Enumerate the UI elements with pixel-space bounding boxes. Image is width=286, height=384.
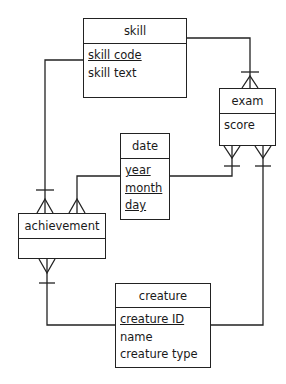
entity-achievement[interactable]: achievement [18,213,106,259]
entity-creature[interactable]: creature creature ID name creature type [115,283,211,368]
attribute-score: score [224,117,275,135]
entity-creature-title: creature [116,284,210,308]
entity-exam-title: exam [220,89,275,114]
attribute-year: year [125,162,169,180]
attribute-day: day [125,197,169,215]
entity-achievement-title: achievement [19,214,105,239]
entity-date[interactable]: date year month day [120,133,170,220]
attribute-creature-type: creature type [120,346,210,364]
entity-exam[interactable]: exam score [219,88,276,146]
date-achievement-line [77,176,120,213]
entity-date-title: date [121,134,169,159]
attribute-name: name [120,329,210,347]
attribute-skill-text: skill text [88,65,186,83]
skill-exam-line [187,38,250,88]
entity-skill-title: skill [84,19,186,44]
date-exam-line [170,146,232,176]
attribute-month: month [125,180,169,198]
creature-exam-line [211,146,263,325]
creature-achievement-line [47,259,115,325]
attribute-skill-code: skill code [88,47,186,65]
attribute-creature-id: creature ID [120,311,210,329]
entity-skill[interactable]: skill skill code skill text [83,18,187,98]
